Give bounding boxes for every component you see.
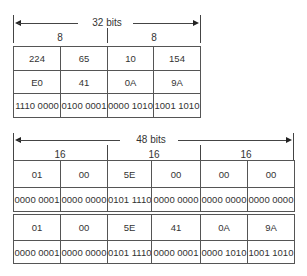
decimal-row: 224 65 10 154 — [14, 47, 201, 71]
cell: 0000 0000 — [152, 188, 201, 212]
mac-address-table-2: 01 00 5E 41 0A 9A 0000 0001 0000 0000 01… — [13, 214, 295, 264]
cell: E0 — [14, 71, 61, 94]
hex-row: 01 00 5E 41 0A 9A — [14, 215, 295, 241]
cell: 0A — [108, 71, 154, 94]
right-tick — [200, 15, 201, 43]
cell: 224 — [14, 47, 61, 71]
group-label: 8 — [50, 32, 70, 43]
binary-row: 0000 0001 0000 0000 0101 1110 0000 0001 … — [14, 241, 295, 264]
cell: 65 — [61, 47, 108, 71]
cell: 00 — [61, 161, 108, 188]
cell: 0101 1110 — [108, 241, 152, 264]
left-tick — [13, 15, 14, 43]
binary-row: 0000 0001 0000 0000 0101 1110 0000 0000 … — [14, 188, 295, 212]
cell: 0000 0001 — [14, 188, 61, 212]
right-tick — [293, 133, 294, 160]
cell: 0A — [201, 215, 248, 241]
cell: 154 — [154, 47, 201, 71]
arrow-right-icon — [286, 137, 292, 143]
arrow-line-left — [18, 23, 78, 24]
ip-address-table: 224 65 10 154 E0 41 0A 9A 1110 0000 0100… — [13, 46, 201, 118]
cell: 0000 0000 — [201, 188, 248, 212]
group-label: 16 — [50, 149, 70, 160]
width-label: 32 bits — [80, 17, 134, 28]
cell: 0000 0000 — [61, 188, 108, 212]
cell: 1110 0000 — [14, 94, 61, 118]
cell: 0000 0001 — [14, 241, 61, 264]
cell: 01 — [14, 215, 61, 241]
middle-tick — [107, 28, 108, 43]
hex-row: E0 41 0A 9A — [14, 71, 201, 94]
cell: 41 — [61, 71, 108, 94]
cell: 0101 1110 — [108, 188, 152, 212]
cell: 10 — [108, 47, 154, 71]
hex-row: 01 00 5E 00 00 00 — [14, 161, 295, 188]
cell: 0100 0001 — [61, 94, 108, 118]
cell: 0000 1010 — [108, 94, 154, 118]
arrow-line-right — [178, 140, 286, 141]
mac-address-table-1: 01 00 5E 00 00 00 0000 0001 0000 0000 01… — [13, 160, 295, 212]
cell: 00 — [201, 161, 248, 188]
cell: 41 — [152, 215, 201, 241]
cell: 0000 0000 — [248, 188, 295, 212]
cell: 1001 1010 — [154, 94, 201, 118]
width-label: 48 bits — [124, 134, 178, 145]
left-tick — [13, 133, 14, 160]
cell: 5E — [108, 161, 152, 188]
binary-row: 1110 0000 0100 0001 0000 1010 1001 1010 — [14, 94, 201, 118]
arrow-line-left — [18, 140, 120, 141]
cell: 9A — [154, 71, 201, 94]
group-label: 8 — [144, 32, 164, 43]
cell: 00 — [248, 161, 295, 188]
cell: 01 — [14, 161, 61, 188]
cell: 00 — [152, 161, 201, 188]
tick — [107, 145, 108, 160]
tick — [200, 145, 201, 160]
group-label: 16 — [236, 149, 256, 160]
cell: 0000 0000 — [61, 241, 108, 264]
cell: 0000 1010 — [201, 241, 248, 264]
cell: 00 — [61, 215, 108, 241]
cell: 1001 1010 — [248, 241, 295, 264]
cell: 9A — [248, 215, 295, 241]
cell: 5E — [108, 215, 152, 241]
arrow-right-icon — [193, 20, 199, 26]
group-label: 16 — [144, 149, 164, 160]
cell: 0000 0001 — [152, 241, 201, 264]
arrow-line-right — [133, 23, 193, 24]
